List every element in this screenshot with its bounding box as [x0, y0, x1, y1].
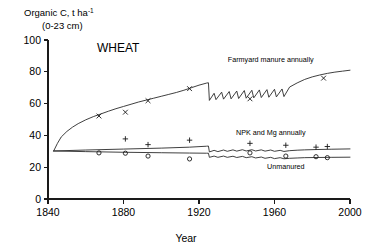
- data-point-marker-plus: [313, 144, 318, 149]
- series-label-1: NPK and Mg annually: [236, 128, 306, 137]
- x-tick-label: 1960: [263, 206, 287, 218]
- chart-container: Organic C, t ha-1 (0-23 cm) WHEAT 020406…: [0, 0, 373, 248]
- series-annotations: Farmyard manure annuallyNPK and Mg annua…: [228, 55, 314, 171]
- data-point-marker-x: [146, 98, 151, 103]
- data-point-marker-x: [123, 110, 128, 115]
- y-axis-title-group: Organic C, t ha-1 (0-23 cm): [24, 7, 94, 31]
- y-axis-title-line1: Organic C, t ha-1: [24, 7, 94, 18]
- data-point-marker-circle: [123, 151, 127, 155]
- panel-title-wheat: WHEAT: [97, 41, 140, 55]
- x-axis-title: Year: [175, 232, 197, 244]
- x-tick-label: 2000: [338, 206, 362, 218]
- organic-carbon-line-chart: Organic C, t ha-1 (0-23 cm) WHEAT 020406…: [0, 0, 373, 248]
- data-point-marker-circle: [146, 154, 150, 158]
- series-line: [54, 70, 350, 151]
- data-point-marker-x: [321, 76, 326, 81]
- series-label-0: Farmyard manure annually: [228, 55, 314, 64]
- data-point-marker-circle: [314, 155, 318, 159]
- x-axis-ticks: 18401880192019602000: [36, 199, 362, 218]
- y-tick-label: 20: [29, 161, 41, 173]
- series-label-2: Unmanured: [267, 162, 305, 171]
- series-layer: [54, 70, 350, 161]
- data-point-marker-plus: [283, 143, 288, 148]
- data-point-marker-plus: [187, 137, 192, 142]
- series-1: [54, 136, 350, 152]
- y-tick-label: 100: [23, 34, 41, 46]
- series-2: [54, 151, 350, 161]
- y-axis-title-line2: (0-23 cm): [42, 20, 83, 31]
- data-point-marker-x: [248, 96, 253, 101]
- data-point-marker-circle: [248, 151, 252, 155]
- y-tick-label: 40: [29, 129, 41, 141]
- x-tick-label: 1880: [112, 206, 136, 218]
- y-tick-label: 0: [35, 193, 41, 205]
- x-tick-label: 1920: [187, 206, 211, 218]
- y-tick-label: 80: [29, 65, 41, 77]
- data-point-marker-plus: [123, 136, 128, 141]
- data-point-marker-circle: [284, 154, 288, 158]
- y-axis-ticks: 020406080100: [23, 34, 48, 205]
- series-0: [54, 70, 350, 151]
- data-point-marker-plus: [145, 142, 150, 147]
- data-point-marker-plus: [325, 144, 330, 149]
- x-tick-label: 1840: [36, 206, 60, 218]
- data-point-marker-circle: [187, 157, 191, 161]
- y-tick-label: 60: [29, 97, 41, 109]
- data-point-marker-plus: [247, 141, 252, 146]
